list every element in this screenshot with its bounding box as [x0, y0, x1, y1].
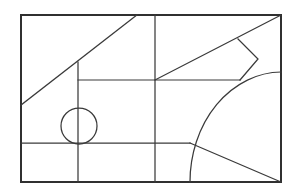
radial-line	[190, 143, 281, 182]
notch-chevron-shape	[238, 39, 258, 80]
quarter-arc-shape	[190, 72, 281, 182]
circle-node-shape	[61, 108, 97, 144]
upper-right-diagonal-line	[155, 15, 281, 80]
figure-canvas	[0, 0, 295, 196]
upper-left-diagonal-line	[21, 15, 137, 105]
line-drawing-svg	[0, 0, 295, 196]
outer-frame	[21, 15, 281, 182]
